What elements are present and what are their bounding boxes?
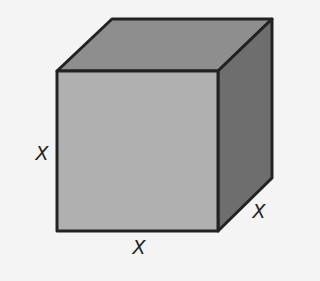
depth-label: X bbox=[252, 202, 265, 221]
cube-front-face bbox=[57, 71, 218, 231]
width-label: X bbox=[132, 238, 145, 257]
height-label: X bbox=[35, 144, 48, 163]
